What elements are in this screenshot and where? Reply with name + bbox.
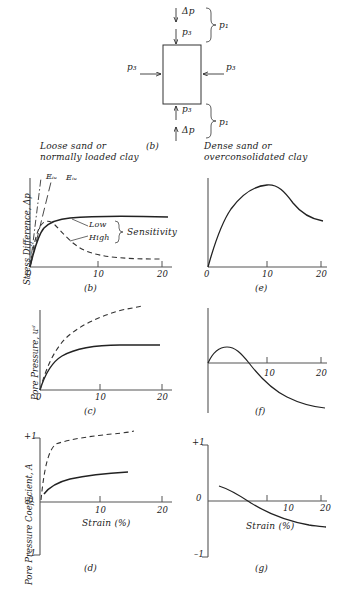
y-axis-title-c: Pore Pressure, uᵈ: [30, 325, 40, 400]
figure-root: Δp p₃ p₁ p₃ p₃ p₃ Δp p₁ (b) Loose sand o…: [0, 0, 351, 599]
label-top-p1: p₁: [219, 20, 229, 31]
y-tick-label-0-g: 0: [196, 493, 202, 504]
panel-letter-a: (b): [146, 141, 159, 151]
x-tick-label-0-b: 0: [26, 269, 32, 280]
panel-letter-d: (d): [84, 563, 97, 573]
chart-panel-c: [0, 300, 180, 405]
label-top-p3: p₃: [182, 27, 192, 38]
curve-low-sensitivity-d: [44, 472, 128, 494]
curve-high-sensitivity-c: [40, 306, 142, 390]
x-tick-label-0-c: 0: [36, 392, 42, 403]
annotation-eiu-2: Eᵢᵤ: [66, 173, 77, 183]
curve-high-sensitivity-d: [41, 431, 134, 500]
curve-low-sensitivity-c: [40, 345, 160, 390]
label-bottom-p3: p₃: [182, 104, 192, 115]
column-header-left: Loose sand or normally loaded clay: [40, 141, 139, 164]
x-tick-label-20-b: 20: [157, 269, 168, 280]
x-tick-label-10-d: 10: [95, 505, 106, 516]
x-tick-label-20-g: 20: [320, 503, 331, 514]
label-bottom-delta-p: Δp: [182, 125, 195, 136]
brace-bottom-p1: [206, 104, 216, 138]
label-right-p3: p₃: [226, 62, 236, 73]
annotation-eiu-1: Eᵢᵤ: [46, 172, 57, 182]
panel-letter-e: (e): [255, 283, 267, 293]
x-tick-label-10-g: 10: [283, 503, 294, 514]
x-tick-label-0-e: 0: [204, 269, 210, 280]
y-tick-label-plus1-d: +1: [24, 431, 37, 442]
y-tick-label-plus1-g: +1: [192, 437, 205, 448]
x-tick-label-20-f: 20: [316, 368, 327, 379]
x-tick-label-20-c: 20: [157, 392, 168, 403]
annotation-sensitivity: Sensitivity: [127, 227, 177, 238]
x-tick-label-20-e: 20: [316, 269, 327, 280]
chart-panel-f: [175, 303, 351, 418]
element-stress-diagram: [0, 0, 351, 150]
leader-high: [70, 236, 88, 241]
label-bottom-p1: p₁: [219, 117, 229, 128]
panel-letter-b: (b): [84, 283, 97, 293]
annotation-low: Low: [89, 220, 107, 230]
panel-letter-f: (f): [255, 406, 265, 416]
label-left-p3: p₃: [127, 62, 137, 73]
x-axis-title-g: Strain (%): [246, 521, 295, 532]
column-header-right: Dense sand or overconsolidated clay: [204, 141, 307, 164]
leader-low: [72, 219, 88, 226]
x-axis-title-d: Strain (%): [82, 518, 131, 529]
x-tick-label-10-b: 10: [93, 269, 104, 280]
x-tick-label-10-c: 10: [95, 392, 106, 403]
x-tick-label-10-e: 10: [262, 269, 273, 280]
soil-element-box: [163, 45, 201, 104]
y-tick-label-minus1-g: –1: [194, 549, 204, 560]
x-tick-label-10-f: 10: [264, 368, 275, 379]
panel-letter-c: (c): [84, 406, 96, 416]
y-axis-title-d: Pore Pressure Coefficient, A: [24, 464, 34, 585]
x-tick-label-20-d: 20: [157, 505, 168, 516]
curve-dense-sand-e: [208, 185, 323, 267]
annotation-high: High: [89, 233, 110, 243]
brace-top-p1: [206, 8, 216, 42]
panel-letter-g: (g): [255, 563, 268, 573]
label-top-delta-p: Δp: [182, 6, 195, 17]
brace-sensitivity: [115, 221, 123, 243]
